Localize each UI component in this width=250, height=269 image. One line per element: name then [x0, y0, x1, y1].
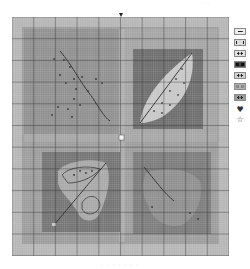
center-point-marker — [119, 135, 124, 140]
chart-caption-top: · · · — [185, 0, 225, 6]
legend-swatch-dots — [234, 50, 246, 57]
legend-swatch-dash — [234, 28, 246, 35]
squares-icon — [236, 63, 244, 66]
bars-icon — [236, 41, 244, 44]
cross-stitch-chart — [12, 17, 229, 256]
dots-icon — [236, 96, 244, 99]
legend-swatch-blocks — [234, 83, 246, 90]
symbol-legend: ♥ ☆ — [234, 28, 248, 125]
dash-icon — [236, 30, 244, 33]
dots-icon — [236, 74, 244, 77]
legend-swatch-dots — [234, 94, 246, 101]
legend-swatch-dots — [234, 72, 246, 79]
blocks-icon — [236, 85, 244, 88]
chart-caption-bottom: · · · · · · · — [70, 261, 170, 269]
legend-swatch-squares — [234, 61, 246, 68]
dots-icon — [236, 52, 244, 55]
star-icon: ☆ — [234, 115, 246, 124]
heart-icon: ♥ — [234, 105, 246, 114]
chart-canvas — [12, 17, 229, 256]
legend-swatch-bars — [234, 39, 246, 46]
